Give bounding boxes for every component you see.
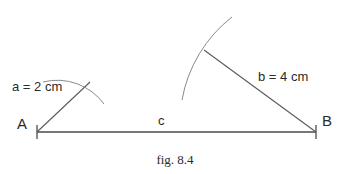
figure-caption: fig. 8.4 xyxy=(0,152,350,168)
label-side-a: a = 2 cm xyxy=(12,80,62,93)
label-side-b: b = 4 cm xyxy=(258,70,308,83)
label-vertex-b: B xyxy=(322,113,332,128)
label-side-c: c xyxy=(158,114,165,127)
label-vertex-a: A xyxy=(17,116,27,131)
compass-arc-from-b xyxy=(182,17,232,100)
segment-b xyxy=(204,50,316,132)
geometry-figure: A B a = 2 cm b = 4 cm c fig. 8.4 xyxy=(0,0,350,174)
